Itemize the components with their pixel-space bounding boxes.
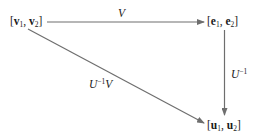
node-e-basis: [e1, e2]: [207, 16, 238, 29]
label-base: V: [118, 7, 125, 19]
edge-label-v: V: [118, 8, 125, 20]
label-superscript: −1: [239, 67, 247, 76]
bracket-close: ]: [39, 15, 43, 27]
edge-label-u-inverse: U−1: [231, 68, 247, 81]
arrow-v-to-u: [28, 29, 204, 123]
label-tail: V: [105, 78, 112, 90]
node-v-basis: [v1, v2]: [10, 16, 42, 29]
node-u-basis: [u1, u2]: [207, 120, 241, 133]
commutative-diagram: [v1, v2] [e1, e2] [u1, u2] V U−1 U−1V: [0, 0, 258, 137]
bracket-close: ]: [237, 119, 241, 131]
bracket-close: ]: [234, 15, 238, 27]
edge-label-u-inverse-v: U−1V: [89, 78, 112, 91]
